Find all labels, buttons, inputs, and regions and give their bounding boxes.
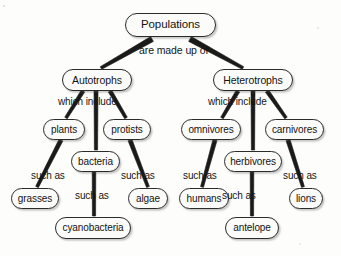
edge-label-such-as-herbivores: such as — [222, 191, 256, 201]
edge-label-which-include-right: which include — [208, 97, 267, 107]
node-label-grasses: grasses — [18, 194, 52, 204]
node-lions[interactable]: lions — [289, 188, 323, 209]
node-label-algae: algae — [136, 194, 160, 204]
node-cyanobacteria[interactable]: cyanobacteria — [55, 217, 131, 239]
node-label-lions: lions — [296, 194, 316, 204]
edge-heterotrophs-carnivores — [265, 90, 287, 119]
node-label-herbivores: herbivores — [230, 157, 276, 167]
node-label-autotrophs: Autotrophs — [72, 75, 122, 86]
edge-label-which-include-left: which include — [58, 97, 117, 107]
node-label-humans: humans — [187, 194, 222, 204]
edge-label-such-as-bacteria: such as — [75, 191, 109, 201]
node-label-plants: plants — [51, 125, 77, 135]
node-algae[interactable]: algae — [128, 188, 168, 209]
node-label-protists: protists — [111, 125, 142, 135]
edge-label-are-made-up-of: are made up of — [139, 45, 208, 56]
node-protists[interactable]: protists — [103, 119, 151, 140]
node-label-bacteria: bacteria — [78, 157, 113, 167]
node-antelope[interactable]: antelope — [225, 217, 279, 239]
node-autotrophs[interactable]: Autotrophs — [62, 69, 132, 91]
edge-label-such-as-omnivores: such as — [183, 171, 217, 181]
concept-map-diagram: PopulationsAutotrophsHeterotrophsplantsp… — [0, 0, 341, 256]
edge-label-such-as-plants: such as — [31, 171, 65, 181]
node-heterotrophs[interactable]: Heterotrophs — [213, 69, 293, 91]
edge-label-such-as-carnivores: such as — [283, 171, 317, 181]
node-label-omnivores: omnivores — [188, 125, 233, 135]
node-grasses[interactable]: grasses — [11, 188, 59, 209]
node-omnivores[interactable]: omnivores — [181, 119, 241, 140]
node-label-cyanobacteria: cyanobacteria — [63, 223, 124, 233]
edge-label-such-as-protists: such as — [121, 171, 155, 181]
node-carnivores[interactable]: carnivores — [265, 119, 324, 140]
node-herbivores[interactable]: herbivores — [224, 151, 282, 172]
node-bacteria[interactable]: bacteria — [71, 151, 120, 172]
node-label-antelope: antelope — [233, 223, 271, 233]
node-label-heterotrophs: Heterotrophs — [223, 75, 283, 86]
node-populations[interactable]: Populations — [125, 13, 216, 37]
node-label-populations: Populations — [141, 19, 200, 31]
node-label-carnivores: carnivores — [272, 125, 317, 135]
node-plants[interactable]: plants — [43, 119, 85, 140]
